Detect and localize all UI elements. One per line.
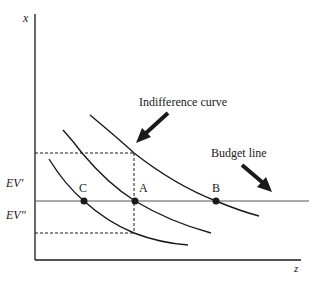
point-c-marker (81, 198, 88, 205)
point-a-marker (132, 198, 139, 205)
ev-prime-label: EV′ (5, 176, 24, 190)
y-axis-label: x (22, 11, 29, 25)
indifference-curve-inner (49, 159, 188, 245)
ev-double-prime-label: EV″ (5, 208, 27, 222)
x-axis-label: z (293, 262, 299, 274)
point-b-label: B (212, 181, 220, 195)
budget-line-annotation: Budget line (211, 146, 267, 160)
indifference-arrow-icon (136, 113, 168, 143)
point-a-label: A (139, 181, 148, 195)
diagram-canvas: x z EV′ EV″ C A B Indifference curve Bud… (0, 0, 319, 283)
indifference-curve-annotation: Indifference curve (139, 95, 227, 109)
point-b-marker (213, 198, 220, 205)
point-c-label: C (79, 181, 87, 195)
budget-arrow-icon (242, 165, 272, 192)
